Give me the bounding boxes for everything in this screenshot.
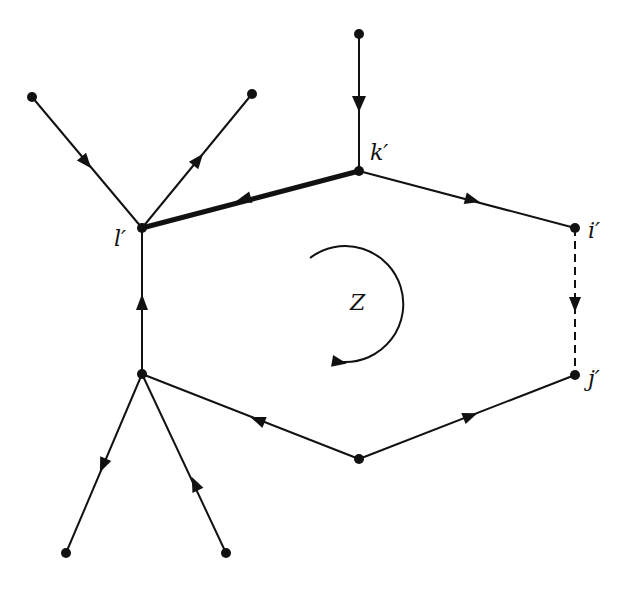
graph-diagram — [0, 0, 631, 589]
arrow-icon — [248, 412, 266, 429]
node-l — [137, 223, 147, 233]
arrow-icon — [94, 456, 111, 474]
node-b — [354, 454, 364, 464]
node-j — [570, 370, 580, 380]
label-j: j′ — [588, 368, 600, 390]
node-ul — [27, 92, 37, 102]
label-l: l′ — [114, 228, 126, 250]
node-bl — [61, 548, 71, 558]
edge-br-to-m — [142, 374, 226, 553]
arrow-icon — [186, 474, 203, 493]
arrow-down-icon — [569, 297, 581, 312]
label-cycle-z: Z — [350, 292, 365, 314]
node-top — [354, 29, 364, 39]
node-br — [221, 548, 231, 558]
arrow-up-icon — [136, 294, 148, 310]
node-k — [354, 166, 364, 176]
arrow-icon — [461, 408, 479, 425]
arrow-icon — [464, 192, 482, 207]
node-m — [137, 369, 147, 379]
node-ur — [247, 89, 257, 99]
label-k: k′ — [370, 142, 388, 164]
label-i: i′ — [588, 220, 600, 242]
edge-b-to-m — [142, 374, 359, 459]
arrow-down-icon — [352, 96, 366, 112]
node-i — [570, 223, 580, 233]
